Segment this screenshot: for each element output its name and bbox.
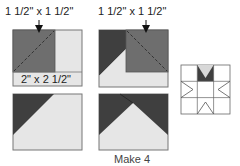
step2-panel (99, 30, 168, 87)
step1-bottom-label: 2" x 2 1/2" (21, 74, 71, 85)
step1-top-label: 1 1/2" x 1 1/2" (5, 6, 73, 17)
step2-top-label: 1 1/2" x 1 1/2" (98, 6, 166, 17)
step4-panel (99, 94, 168, 150)
caption: Make 4 (114, 154, 150, 165)
star-block (181, 65, 230, 114)
step3-panel (13, 94, 82, 150)
